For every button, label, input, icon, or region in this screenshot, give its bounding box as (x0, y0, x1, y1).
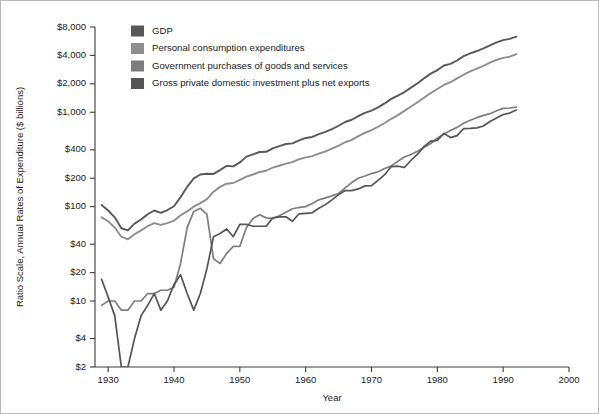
x-tick-label: 1960 (295, 374, 316, 385)
legend-label: GDP (152, 25, 173, 36)
x-tick-label: 1930 (98, 374, 119, 385)
y-tick-label: $20 (70, 266, 86, 277)
x-tick-label: 2000 (558, 374, 579, 385)
legend-swatch (131, 78, 144, 89)
y-axis-title: Ratio Scale, Annual Rates of Expenditure… (14, 87, 25, 307)
chart-figure: $2$4$10$20$40$100$200$400$1,000$2,000$4,… (0, 0, 599, 414)
y-tick-label: $200 (65, 172, 86, 183)
y-tick-label: $40 (70, 238, 86, 249)
axis-titles: Ratio Scale, Annual Rates of Expenditure… (14, 87, 342, 403)
y-tick-label: $4,000 (57, 49, 86, 60)
y-tick-label: $4 (75, 332, 86, 343)
y-tick-label: $2 (75, 361, 86, 372)
y-tick-label: $8,000 (57, 21, 86, 32)
series-line-4 (102, 110, 517, 367)
legend-label: Gross private domestic investment plus n… (152, 77, 370, 88)
y-tick-label: $10 (70, 295, 86, 306)
x-tick-label: 1950 (229, 374, 250, 385)
x-tick-label: 1970 (361, 374, 382, 385)
legend-label: Personal consumption expenditures (152, 42, 305, 53)
x-tick-label: 1980 (427, 374, 448, 385)
y-tick-label: $1,000 (57, 106, 86, 117)
expenditure-line-chart: $2$4$10$20$40$100$200$400$1,000$2,000$4,… (1, 1, 598, 413)
y-tick-label: $2,000 (57, 77, 86, 88)
x-tick-label: 1990 (493, 374, 514, 385)
y-tick-label: $100 (65, 200, 86, 211)
y-tick-label: $400 (65, 143, 86, 154)
legend-swatch (131, 43, 144, 54)
x-axis-title: Year (322, 392, 341, 403)
legend-label: Government purchases of goods and servic… (152, 60, 348, 71)
legend-swatch (131, 26, 144, 37)
axis-group: $2$4$10$20$40$100$200$400$1,000$2,000$4,… (57, 21, 580, 385)
x-tick-label: 1940 (163, 374, 184, 385)
chart-legend: GDPPersonal consumption expendituresGove… (131, 25, 370, 89)
legend-swatch (131, 61, 144, 72)
